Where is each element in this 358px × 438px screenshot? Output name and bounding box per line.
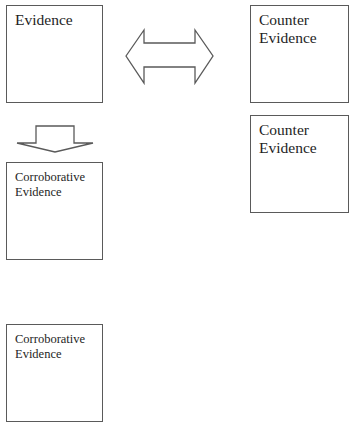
corroborative-evidence-box-1: Corroborative Evidence [6, 162, 103, 260]
corroborative-evidence-label-2: Corroborative Evidence [15, 332, 85, 362]
corroborative-evidence-box-2: Corroborative Evidence [6, 324, 103, 422]
corroborative-evidence-label-1: Corroborative Evidence [15, 170, 85, 200]
